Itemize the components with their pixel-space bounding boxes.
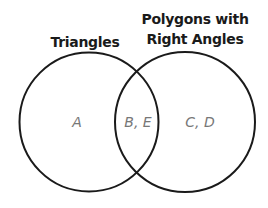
right-angles-title-line2: Right Angles <box>135 30 255 49</box>
region-intersection: B, E <box>120 114 156 130</box>
region-right-only: C, D <box>180 114 220 130</box>
region-left-only: A <box>62 114 92 130</box>
triangles-title: Triangles <box>40 33 130 52</box>
right-angles-title-line1: Polygons with <box>135 10 255 29</box>
